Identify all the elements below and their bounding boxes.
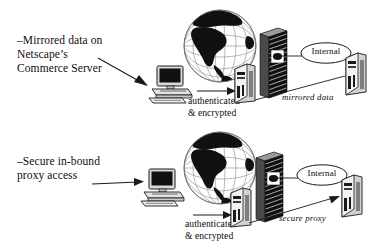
workstation-icon-proxy <box>140 167 188 207</box>
flow-label-secure-proxy: secure proxy <box>279 213 326 223</box>
diagram-canvas: –Mirrored data on Netscape’s Commerce Se… <box>0 0 376 250</box>
diagram-row-mirrored: –Mirrored data on Netscape’s Commerce Se… <box>0 0 376 125</box>
flow-label-mirrored-data: mirrored data <box>282 92 334 102</box>
diagram-row-proxy: –Secure in-bound proxy access <box>0 125 376 250</box>
